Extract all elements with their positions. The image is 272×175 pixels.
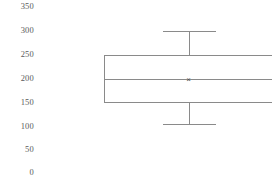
mean-marker: × bbox=[185, 76, 192, 83]
y-axis-tick-label: 150 bbox=[4, 98, 34, 107]
y-axis-tick-label: 100 bbox=[4, 122, 34, 131]
y-axis-tick-label: 0 bbox=[4, 168, 34, 175]
lower-whisker-cap bbox=[163, 124, 216, 125]
y-axis-tick-label: 200 bbox=[4, 74, 34, 83]
y-axis-tick-label: 350 bbox=[4, 2, 34, 11]
y-axis-tick-label: 50 bbox=[4, 145, 34, 154]
upper-whisker-stem bbox=[189, 31, 190, 56]
lower-whisker-stem bbox=[189, 102, 190, 124]
box-plot-chart: 350 300 250 200 150 100 50 0 × bbox=[0, 0, 272, 175]
y-axis-tick-label: 300 bbox=[4, 26, 34, 35]
y-axis-tick-label: 250 bbox=[4, 50, 34, 59]
